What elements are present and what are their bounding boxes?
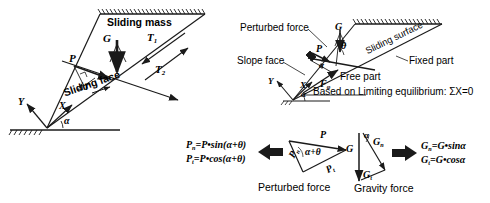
label-alpha-left: α <box>64 116 70 126</box>
label-free-part: Free part <box>340 72 381 82</box>
figure-canvas: Sliding mass Sliding face G P ΔT T1 T2 X… <box>0 0 490 203</box>
label-alpha-right: α <box>301 90 306 99</box>
label-perturbed-p-left: P <box>69 53 76 64</box>
caption-perturbed-force: Perturbed force <box>258 182 330 193</box>
label-perturbed-force: Perturbed force <box>240 23 309 33</box>
tri-label-p: P <box>320 130 326 140</box>
label-axis-x-left: X <box>59 101 66 111</box>
label-axis-y-left: Y <box>18 97 24 107</box>
equation-gn: Gn=G•sinα <box>421 141 466 151</box>
label-axis-y-right: Y <box>268 77 274 86</box>
label-theta: θ <box>341 41 346 51</box>
equation-pt: Pt=P•cos(α+θ) <box>186 154 246 164</box>
label-sliding-mass: Sliding mass <box>107 17 172 28</box>
tri-label-alpha-gravity: α <box>364 131 369 140</box>
tri-label-gn: Gn <box>373 137 384 147</box>
tri-label-gt: Gt <box>363 170 372 180</box>
label-delta-t: ΔT <box>78 83 89 92</box>
equation-pn: Pn=P•sin(α+θ) <box>186 140 246 150</box>
label-gravity-g-left: G <box>103 33 111 44</box>
label-equilibrium-note: Based on Limiting equilibrium: ΣX=0 <box>313 87 473 97</box>
label-t1: T1 <box>147 32 157 43</box>
label-slope-face: Slope face <box>237 56 284 66</box>
label-fixed-part: Fixed part <box>409 56 453 66</box>
caption-gravity-force: Gravity force <box>354 183 414 194</box>
label-t2: T2 <box>155 64 165 75</box>
label-gravity-g-right: G <box>335 22 342 32</box>
tri-label-alpha-theta: α+θ <box>305 148 321 158</box>
tri-label-g: G <box>346 144 353 154</box>
equation-gt: Gt=G•cosα <box>421 155 465 165</box>
label-perturbed-p-right: P <box>316 44 322 54</box>
label-alpha-inner-right: α <box>319 61 324 70</box>
